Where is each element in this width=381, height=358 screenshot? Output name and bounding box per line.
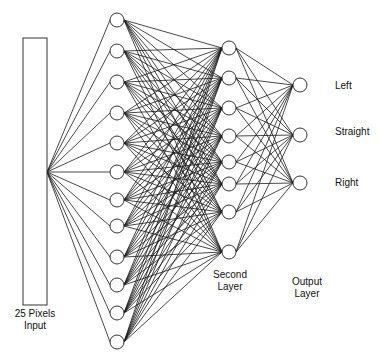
edge-layer2-to-output	[236, 135, 293, 212]
edge-layer2-to-output	[236, 108, 293, 183]
edge-layer2-to-output	[236, 162, 293, 183]
edge-layer2-to-output	[236, 135, 293, 184]
input-label-line1: 25 Pixels	[15, 308, 56, 319]
edge-input-to-layer1	[47, 172, 110, 285]
layer2-node	[222, 101, 236, 115]
output-label-right: Right	[335, 177, 359, 188]
layer2-node	[222, 129, 236, 143]
layer1-node	[110, 278, 124, 292]
edge-layer2-to-output	[236, 48, 293, 183]
output-label-straight: Straight	[335, 126, 370, 137]
output-node-straight	[293, 128, 307, 142]
edge-layer2-to-output	[236, 78, 293, 135]
edge-input-to-layer1	[47, 143, 110, 172]
edge-layer2-to-output	[236, 183, 293, 184]
edge-input-to-layer1	[47, 172, 110, 342]
layer1-node	[110, 335, 124, 349]
edges-group	[47, 20, 293, 342]
layer2-node	[222, 245, 236, 259]
edge-input-to-layer1	[47, 113, 110, 172]
output-layer-label-line1: Output	[292, 276, 322, 287]
second-layer-label-line1: Second	[213, 269, 247, 280]
layer1-node	[110, 219, 124, 233]
layer1-node	[110, 306, 124, 320]
layer2-node	[222, 205, 236, 219]
layer1-node	[110, 106, 124, 120]
layer2-node	[222, 41, 236, 55]
output-node-left	[293, 78, 307, 92]
edge-layer2-to-output	[236, 78, 293, 183]
edge-layer1-to-layer2	[124, 162, 222, 313]
edge-layer2-to-output	[236, 48, 293, 135]
layer2-node	[222, 155, 236, 169]
layer1-node	[110, 193, 124, 207]
layer1-node	[110, 165, 124, 179]
input-box	[23, 38, 47, 305]
second-layer-label-line2: Layer	[217, 281, 243, 292]
edge-layer1-to-layer2	[124, 162, 222, 342]
edge-layer1-to-layer2	[124, 48, 222, 143]
layer1-node	[110, 13, 124, 27]
network-diagram: 25 Pixels Input Second Layer Output Laye…	[0, 0, 381, 358]
layer2-node	[222, 71, 236, 85]
layer1-node	[110, 44, 124, 58]
edge-input-to-layer1	[47, 51, 110, 172]
edge-layer1-to-layer2	[124, 48, 222, 82]
edge-layer2-to-output	[236, 183, 293, 212]
layer2-node	[222, 177, 236, 191]
output-node-right	[293, 176, 307, 190]
layer1-node	[110, 250, 124, 264]
edge-input-to-layer1	[47, 172, 110, 200]
output-label-left: Left	[335, 80, 352, 91]
edge-input-to-layer1	[47, 172, 110, 257]
output-layer-label-line2: Layer	[294, 288, 320, 299]
layer1-node	[110, 136, 124, 150]
edge-layer1-to-layer2	[124, 20, 222, 48]
edge-input-to-layer1	[47, 172, 110, 313]
edge-input-to-layer1	[47, 172, 110, 226]
input-label-line2: Input	[24, 320, 46, 331]
edge-layer1-to-layer2	[124, 252, 222, 285]
layer1-node	[110, 75, 124, 89]
